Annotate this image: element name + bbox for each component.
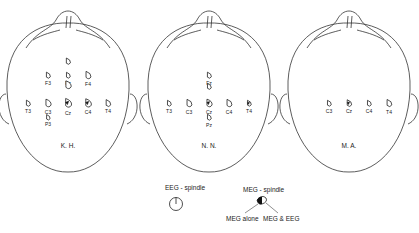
- nose-ridge: [70, 16, 71, 28]
- subject-label: N. N.: [202, 142, 217, 149]
- electrode-t4: T4: [386, 99, 392, 114]
- head-outline: [288, 23, 410, 172]
- legend-meg-title: MEG - spindle: [243, 186, 285, 194]
- electrode-c3: C3: [186, 99, 193, 114]
- spindle-marker: [47, 115, 51, 120]
- electrode-f4: F4: [85, 71, 91, 86]
- electrode-label: C3: [326, 108, 333, 114]
- electrode-label: C4: [366, 108, 373, 114]
- spindle-marker: [227, 99, 232, 106]
- electrode-label: Cz: [206, 109, 213, 115]
- head-outline: [148, 23, 270, 172]
- electrode-label: T4: [246, 108, 252, 114]
- spindle-topography-figure: K. H.F3FzF4T3C3CzC4T4P3 N. N.FzT3C3CzC4T…: [0, 0, 419, 233]
- electrode-cz: Cz: [206, 99, 213, 115]
- nose-ridge: [347, 16, 348, 28]
- electrode-t3: T3: [166, 100, 172, 113]
- spindle-marker: [46, 72, 50, 78]
- electrode-label: F4: [85, 81, 91, 87]
- head-diagram-ma: M. A.C3CzC4T4: [280, 11, 418, 172]
- electrode-label: T4: [105, 108, 111, 114]
- eeg-spindle-icon: [170, 198, 183, 211]
- nose-line: [217, 30, 244, 40]
- nose-ridge: [211, 16, 212, 28]
- subject-label: K. H.: [61, 142, 76, 149]
- electrode-unlabeled: [66, 58, 70, 64]
- electrode-label: P3: [45, 121, 51, 127]
- electrode-f3: F3: [45, 72, 51, 86]
- spindle-marker: [387, 99, 392, 106]
- electrode-p3: P3: [45, 115, 51, 128]
- spindle-marker: [187, 99, 192, 106]
- electrode-label: T3: [25, 108, 31, 114]
- legend-eeg-title: EEG - spindle: [165, 184, 205, 192]
- nose-icon: [307, 11, 391, 48]
- nose-line: [314, 30, 341, 40]
- electrode-label: T3: [166, 108, 172, 114]
- electrode-label: C3: [186, 109, 193, 115]
- electrode-label: C3: [45, 109, 52, 115]
- spindle-marker: [207, 72, 211, 78]
- spindle-marker: [66, 58, 70, 64]
- nose-line: [174, 30, 201, 40]
- electrode-c4: C4: [366, 100, 373, 113]
- legend-meg-alone: MEG alone: [226, 215, 259, 222]
- arrow-meg-eeg: [266, 203, 278, 213]
- nose-ridge: [66, 16, 67, 28]
- arrow-meg-alone: [245, 204, 258, 213]
- electrode-pz: Pz: [206, 114, 212, 127]
- electrode-label: Cz: [346, 108, 353, 114]
- meg-spindle-icon: [257, 196, 267, 204]
- nose-icon: [167, 11, 251, 48]
- electrode-c4: C4: [226, 99, 233, 114]
- spindle-marker: [66, 72, 70, 78]
- nose-line: [357, 30, 384, 40]
- electrode-cz: Cz: [65, 98, 72, 115]
- head-outline: [7, 23, 129, 172]
- electrode-label: C4: [226, 109, 233, 115]
- electrode-c3: C3: [326, 100, 333, 113]
- legend: EEG - spindle MEG - spindle MEG alone ME…: [165, 184, 299, 222]
- electrode-label: T4: [386, 109, 392, 115]
- electrode-label: C4: [85, 109, 92, 115]
- nose-line: [76, 30, 103, 40]
- electrode-t3: T3: [25, 100, 31, 114]
- electrode-cz: Cz: [346, 100, 353, 115]
- nose-line: [33, 30, 60, 40]
- head-diagram-nn: N. N.FzT3C3CzC4T4Pz: [140, 11, 278, 172]
- spindle-marker: [86, 71, 91, 78]
- spindle-marker: [26, 100, 30, 106]
- spindle-marker: [327, 100, 331, 106]
- electrode-label: Cz: [65, 110, 72, 116]
- spindle-marker: [207, 114, 211, 120]
- electrode-t4: T4: [246, 100, 252, 113]
- subject-label: M. A.: [342, 142, 357, 149]
- spindle-marker: [46, 99, 51, 107]
- electrode-label: F3: [45, 80, 51, 86]
- legend-meg-eeg: MEG & EEG: [263, 215, 299, 222]
- spindle-marker: [367, 100, 371, 106]
- electrode-label: Pz: [206, 122, 212, 128]
- nose-ridge: [351, 16, 352, 28]
- nose-ridge: [207, 16, 208, 28]
- spindle-marker: [167, 100, 171, 106]
- electrode-c4: C4: [85, 99, 92, 115]
- spindle-marker: [106, 100, 111, 107]
- nose-icon: [26, 11, 110, 48]
- electrode-t4: T4: [105, 100, 111, 115]
- head-diagram-kh: K. H.F3FzF4T3C3CzC4T4P3: [0, 11, 137, 172]
- electrode-c3: C3: [45, 99, 52, 115]
